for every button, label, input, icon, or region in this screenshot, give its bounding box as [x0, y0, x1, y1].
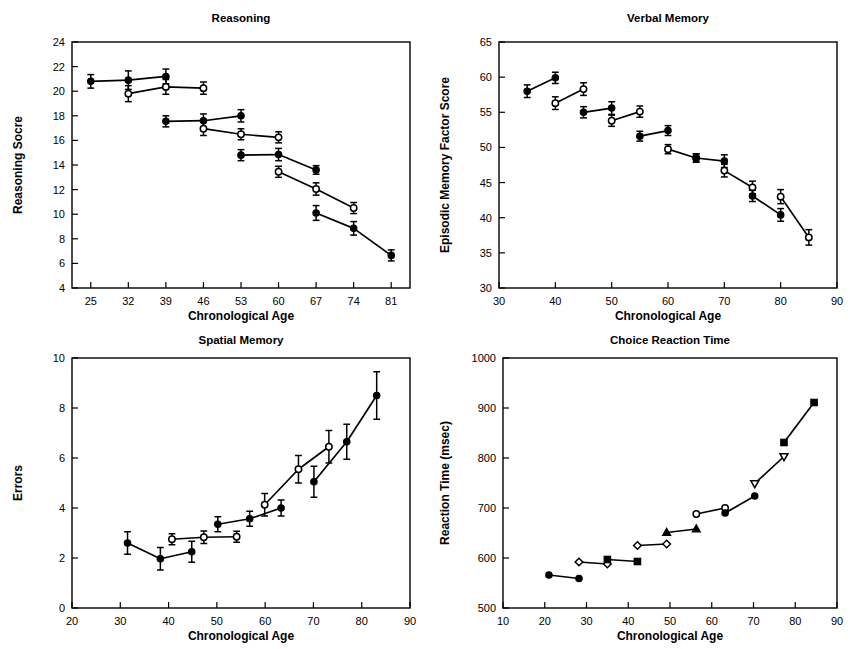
- data-point-open-down-triangle: [751, 481, 759, 488]
- data-point-open-circle: [350, 205, 356, 211]
- data-point-open-circle: [201, 534, 207, 540]
- data-point-open-circle: [200, 85, 206, 91]
- y-tick-label: 65: [480, 36, 492, 48]
- chart-title: Verbal Memory: [627, 12, 709, 24]
- data-point-open-circle: [169, 536, 175, 542]
- x-tick-label: 53: [235, 295, 247, 307]
- y-tick-label: 12: [53, 184, 65, 196]
- data-point-open-diamond: [575, 558, 583, 566]
- series-group: [125, 80, 207, 102]
- data-point-filled-circle: [388, 252, 394, 258]
- data-point-open-circle: [275, 169, 281, 175]
- data-point-open-circle: [693, 511, 699, 517]
- data-point-open-circle: [275, 134, 281, 140]
- y-tick-label: 50: [480, 141, 492, 153]
- data-point-open-circle: [665, 146, 671, 152]
- y-tick-label: 20: [53, 85, 65, 97]
- y-tick-label: 10: [53, 208, 65, 220]
- data-point-filled-circle: [313, 167, 319, 173]
- y-tick-label: 6: [59, 257, 65, 269]
- series-line: [607, 560, 637, 562]
- series-group: [124, 532, 195, 570]
- data-point-filled-square: [781, 439, 787, 445]
- data-point-open-circle: [233, 534, 239, 540]
- series-group: [169, 531, 241, 545]
- y-tick-label: 700: [478, 502, 496, 514]
- data-point-filled-circle: [576, 575, 582, 581]
- series-line: [549, 575, 579, 579]
- data-point-filled-circle: [546, 572, 552, 578]
- y-axis-label: Reaction Time (msec): [438, 421, 452, 545]
- panel-choice-reaction-time: Choice Reaction Time50060070080090010001…: [425, 330, 850, 649]
- data-point-filled-circle: [344, 439, 350, 445]
- reasoning-chart: Reasoning4681012141618202224253239465360…: [0, 0, 425, 330]
- y-tick-label: 2: [59, 552, 65, 564]
- data-point-open-circle: [580, 86, 586, 92]
- y-tick-label: 6: [59, 452, 65, 464]
- y-tick-label: 800: [478, 452, 496, 464]
- series-group: [552, 83, 587, 110]
- y-axis-label: Episodic Memory Factor Score: [438, 77, 452, 253]
- data-point-open-circle: [806, 234, 812, 240]
- x-axis-label: Chronological Age: [615, 309, 722, 323]
- series-line: [696, 508, 725, 514]
- x-tick-label: 25: [85, 295, 97, 307]
- series-group: [214, 500, 284, 532]
- series-line: [612, 112, 640, 121]
- data-point-filled-circle: [278, 505, 284, 511]
- series-group: [722, 493, 758, 516]
- data-point-filled-circle: [693, 155, 699, 161]
- data-point-open-circle: [313, 186, 319, 192]
- plot-frame: [72, 358, 410, 608]
- x-tick-label: 40: [549, 295, 561, 307]
- y-tick-label: 30: [480, 282, 492, 294]
- y-tick-label: 600: [478, 552, 496, 564]
- data-point-filled-circle: [163, 73, 169, 79]
- data-point-filled-square: [634, 558, 640, 564]
- data-point-open-circle: [163, 84, 169, 90]
- x-tick-label: 39: [160, 295, 172, 307]
- y-tick-label: 60: [480, 71, 492, 83]
- data-point-filled-circle: [88, 78, 94, 84]
- x-tick-label: 32: [122, 295, 134, 307]
- data-point-filled-circle: [637, 133, 643, 139]
- data-point-open-circle: [125, 90, 131, 96]
- x-tick-label: 70: [718, 295, 730, 307]
- x-tick-label: 46: [197, 295, 209, 307]
- data-point-filled-circle: [552, 75, 558, 81]
- data-point-open-circle: [552, 100, 558, 106]
- series-group: [781, 399, 817, 445]
- series-group: [634, 540, 671, 549]
- x-axis-label: Chronological Age: [188, 309, 295, 323]
- data-point-filled-circle: [608, 105, 614, 111]
- data-point-filled-square: [604, 556, 610, 562]
- data-point-open-circle: [238, 131, 244, 137]
- y-tick-label: 45: [480, 177, 492, 189]
- x-tick-label: 80: [775, 295, 787, 307]
- data-point-open-circle: [326, 444, 332, 450]
- data-point-filled-circle: [777, 212, 783, 218]
- data-point-filled-circle: [722, 510, 728, 516]
- series-line: [781, 197, 809, 238]
- series-line: [668, 149, 696, 158]
- y-tick-label: 16: [53, 134, 65, 146]
- series-group: [546, 572, 582, 582]
- series-line: [555, 89, 583, 103]
- x-tick-label: 74: [348, 295, 360, 307]
- data-point-filled-circle: [163, 118, 169, 124]
- choice-reaction-time-chart: Choice Reaction Time50060070080090010001…: [425, 330, 850, 649]
- data-point-filled-circle: [721, 158, 727, 164]
- series-group: [311, 372, 381, 498]
- series-group: [636, 126, 671, 141]
- data-point-open-circle: [777, 193, 783, 199]
- x-tick-label: 50: [606, 295, 618, 307]
- series-group: [693, 154, 728, 168]
- data-point-filled-circle: [275, 151, 281, 157]
- y-axis-label: Reasoning Socre: [11, 116, 25, 214]
- data-point-open-circle: [295, 466, 301, 472]
- y-tick-label: 18: [53, 110, 65, 122]
- data-point-filled-circle: [157, 556, 163, 562]
- data-point-filled-circle: [238, 113, 244, 119]
- series-line: [640, 131, 668, 137]
- data-point-filled-circle: [350, 225, 356, 231]
